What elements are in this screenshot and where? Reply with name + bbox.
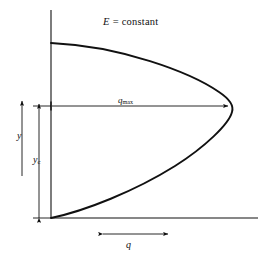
q-label: q <box>126 240 131 250</box>
plot-canvas <box>0 0 270 261</box>
title-symbol: E <box>103 16 110 27</box>
y-label: y <box>17 131 21 141</box>
y-symbol: y <box>17 130 21 141</box>
title-relation: = <box>110 16 122 27</box>
yc-label: yc <box>33 155 40 165</box>
yc-subscript: c <box>37 158 40 165</box>
qmax-label: qmax <box>118 96 133 105</box>
plot-title: E=constant <box>103 17 158 28</box>
specific-energy-curve <box>51 43 233 218</box>
qmax-subscript: max <box>123 99 134 105</box>
specific-energy-diagram: E=constant qmax y yc q <box>0 0 270 261</box>
title-value: constant <box>122 16 159 27</box>
q-symbol: q <box>126 239 131 250</box>
